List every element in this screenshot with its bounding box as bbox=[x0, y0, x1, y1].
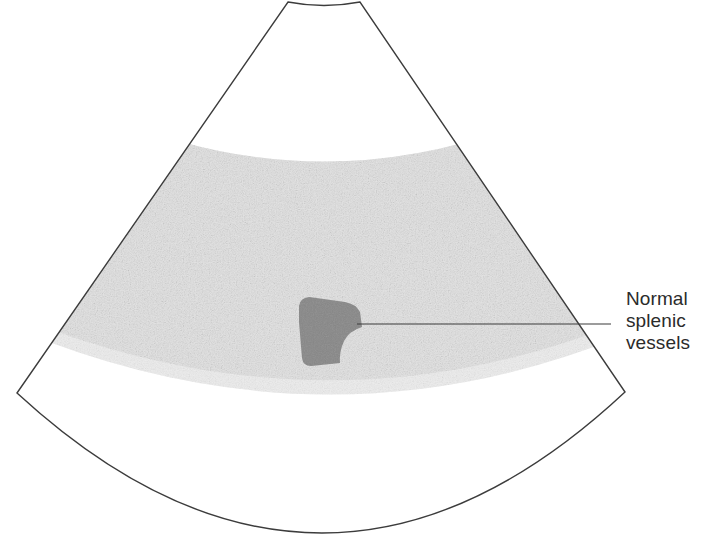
annotation-line-3: vessels bbox=[626, 332, 701, 354]
ultrasound-figure: Normal splenic vessels bbox=[0, 0, 701, 546]
annotation-normal-splenic-vessels: Normal splenic vessels bbox=[626, 288, 701, 354]
annotation-line-2: splenic bbox=[626, 310, 701, 332]
ultrasound-sector-svg bbox=[0, 0, 701, 546]
annotation-line-1: Normal bbox=[626, 288, 701, 310]
